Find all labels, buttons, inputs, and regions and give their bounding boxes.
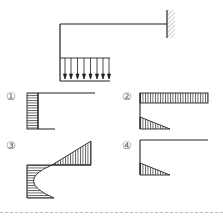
option-2-hatched-triangle (140, 117, 170, 129)
fixed-wall-hatch (168, 10, 175, 38)
distributed-load (60, 58, 111, 79)
option-1-hatched-rect (27, 93, 38, 129)
option-3-label[interactable]: ③ (6, 140, 16, 151)
option-4-label[interactable]: ④ (122, 140, 132, 151)
option-4-diagram[interactable] (140, 140, 208, 175)
option-2-diagram[interactable] (140, 93, 208, 129)
option-4-hatched-triangle (140, 163, 170, 175)
diagram-canvas (0, 0, 223, 216)
option-1-diagram[interactable] (27, 93, 95, 129)
option-2-hatched-rect (140, 93, 208, 103)
option-2-label[interactable]: ② (122, 91, 132, 102)
option-1-label[interactable]: ① (6, 91, 16, 102)
option-3-diagram[interactable] (27, 141, 91, 198)
option-3-hatched-triangle (52, 141, 91, 165)
main-structure (60, 10, 175, 81)
option-3-hatched-parabola (27, 165, 54, 198)
bottom-divider (0, 212, 223, 214)
